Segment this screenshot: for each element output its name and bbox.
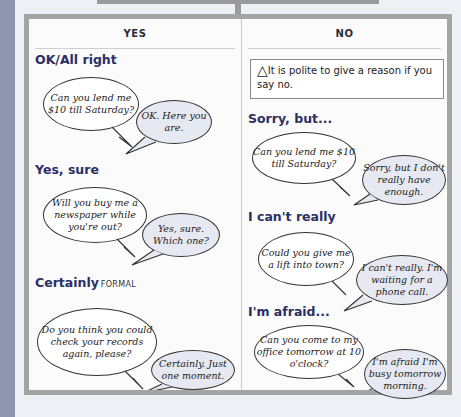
warning-triangle-icon: △: [257, 64, 268, 76]
answer-bubble: I can't really. I'm waiting for a phone …: [356, 255, 448, 305]
section-heading-im-afraid: I'm afraid...: [248, 304, 330, 319]
yes-column: YES OK/All right Can you lend me $10 til…: [29, 19, 241, 390]
answer-bubble: Sorry, but I don't really have enough.: [362, 155, 446, 205]
question-bubble: Do you think you could check your record…: [37, 308, 157, 376]
question-bubble: Could you give me a lift into town?: [258, 232, 354, 286]
question-bubble: Will you buy me a newspaper while you're…: [43, 187, 147, 243]
answer-bubble: OK. Here you are.: [136, 100, 212, 144]
heading-text: OK/All right: [35, 52, 117, 67]
section-heading-i-cant-really: I can't really: [248, 209, 336, 224]
no-column-header: NO: [248, 19, 441, 49]
no-column: NO △It is polite to give a reason if you…: [241, 19, 447, 390]
heading-text: Yes, sure: [35, 162, 99, 177]
question-bubble: Can you lend me $10 till Saturday?: [252, 132, 356, 184]
answer-bubble: I'm afraid I'm busy tomorrow morning.: [364, 349, 446, 399]
register-tag-formal: FORMAL: [101, 280, 136, 289]
section-heading-sorry-but: Sorry, but...: [248, 111, 332, 126]
heading-text: I can't really: [248, 209, 336, 224]
left-margin-band: [0, 0, 15, 417]
section-heading-ok-all-right: OK/All right: [35, 52, 117, 67]
question-bubble: Can you lend me $10 till Saturday?: [43, 77, 139, 131]
section-heading-certainly: CertainlyFORMAL: [35, 275, 136, 290]
answer-bubble: Certainly. Just one moment.: [151, 350, 235, 390]
heading-text: Certainly: [35, 275, 99, 290]
question-bubble: Can you come to my office tomorrow at 10…: [254, 325, 364, 379]
note-text: It is polite to give a reason if you say…: [257, 65, 432, 90]
section-heading-yes-sure: Yes, sure: [35, 162, 99, 177]
yes-column-header: YES: [35, 19, 235, 49]
politeness-note: △It is polite to give a reason if you sa…: [250, 59, 444, 99]
heading-text: Sorry, but...: [248, 111, 332, 126]
answer-bubble: Yes, sure. Which one?: [142, 213, 220, 257]
heading-text: I'm afraid...: [248, 304, 330, 319]
yes-no-table: YES OK/All right Can you lend me $10 til…: [24, 14, 452, 395]
